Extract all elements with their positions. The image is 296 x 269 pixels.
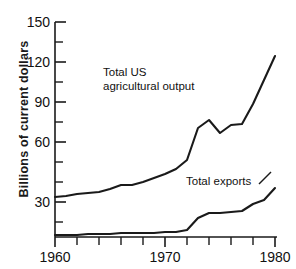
y-axis-title: Billions of current dollars <box>17 9 31 229</box>
x-tick-label-1970: 1970 <box>149 249 180 265</box>
y-axis-ticks <box>55 22 66 222</box>
y-tick-label-90: 90 <box>34 94 50 110</box>
annotation-exports-leader-line <box>259 172 271 184</box>
chart-canvas: 150 120 90 60 30 1960 1970 1980 To <box>0 0 296 269</box>
annotation-output-line2: agricultural output <box>103 80 195 92</box>
x-tick-label-1980: 1980 <box>259 249 290 265</box>
x-axis-ticks <box>55 237 275 247</box>
x-tick-label-1960: 1960 <box>39 249 70 265</box>
annotation-output-line1: Total US <box>103 66 147 78</box>
y-tick-label-60: 60 <box>34 134 50 150</box>
annotation-exports-label: Total exports <box>186 175 251 187</box>
series-line-total-exports <box>55 188 275 235</box>
annotation-total-exports: Total exports <box>186 172 271 187</box>
y-tick-label-30: 30 <box>34 194 50 210</box>
annotation-agricultural-output: Total US agricultural output <box>103 66 195 92</box>
chart-figure: Billions of current dollars 150 120 90 6… <box>0 0 296 269</box>
